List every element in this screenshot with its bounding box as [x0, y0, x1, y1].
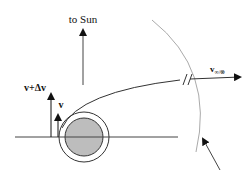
to-sun-label: to Sun [69, 13, 98, 25]
break-mark-1 [183, 74, 187, 85]
v-infinity-subscript: ∞/⊗ [215, 69, 226, 75]
v-label: v [59, 99, 64, 110]
sphere-of-influence-arc [152, 20, 200, 152]
break-mark-2 [188, 74, 192, 85]
v-infinity-arrow [190, 77, 240, 79]
v-plus-delta-v-label: v+Δv [24, 82, 46, 93]
v-infinity-label: v∞/⊗ [210, 64, 225, 75]
gravity-assist-diagram: to Sun v+Δv v v∞/⊗ [0, 0, 252, 175]
pointer-arrow [203, 139, 220, 170]
